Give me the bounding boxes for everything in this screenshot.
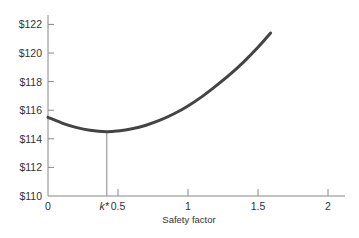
- y-tick-label: $114: [19, 133, 42, 145]
- x-tick-label: 0: [45, 200, 51, 212]
- x-axis-title: Safety factor: [162, 214, 215, 225]
- x-axis: 00.511.52: [45, 189, 345, 212]
- y-tick-label: $118: [19, 76, 42, 88]
- x-tick-label: 1: [185, 200, 191, 212]
- chart: $110$112$114$116$118$120$122 00.511.52 k…: [0, 0, 359, 238]
- y-tick-label: $112: [19, 161, 42, 173]
- y-tick-label: $116: [19, 104, 42, 116]
- y-tick-label: $110: [19, 190, 42, 202]
- cost-curve: [48, 33, 271, 132]
- y-axis: $110$112$114$116$118$120$122: [19, 15, 54, 202]
- kstar-marker: k*: [99, 132, 109, 212]
- kstar-label: k*: [99, 200, 109, 212]
- x-tick-label: 1.5: [251, 200, 266, 212]
- y-tick-label: $120: [19, 47, 43, 59]
- y-tick-label: $122: [19, 18, 43, 30]
- x-tick-label: 2: [325, 200, 331, 212]
- x-tick-label: 0.5: [111, 200, 126, 212]
